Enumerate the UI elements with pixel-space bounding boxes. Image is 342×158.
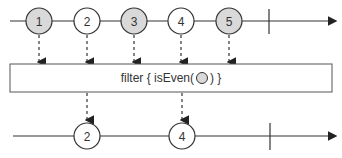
- output-emission-arrows: [87, 93, 182, 120]
- operator-label-suffix: ) }: [210, 71, 221, 85]
- marble-3: 3: [121, 8, 147, 34]
- marble-1: 1: [26, 8, 52, 34]
- operator-label: filter { isEven( ) }: [10, 65, 332, 91]
- input-emission-arrows: [39, 35, 229, 62]
- svg-text:3: 3: [131, 15, 138, 29]
- marble-placeholder-icon: [196, 72, 208, 84]
- marble-5: 5: [216, 8, 242, 34]
- output-marble-4: 4: [169, 123, 195, 149]
- svg-text:4: 4: [178, 15, 185, 29]
- operator-label-prefix: filter { isEven(: [121, 71, 194, 85]
- svg-text:1: 1: [36, 15, 43, 29]
- svg-text:2: 2: [84, 130, 91, 144]
- svg-text:2: 2: [84, 15, 91, 29]
- marble-4: 4: [168, 8, 194, 34]
- svg-text:4: 4: [179, 130, 186, 144]
- svg-text:5: 5: [226, 15, 233, 29]
- marble-2: 2: [74, 8, 100, 34]
- output-marble-2: 2: [74, 123, 100, 149]
